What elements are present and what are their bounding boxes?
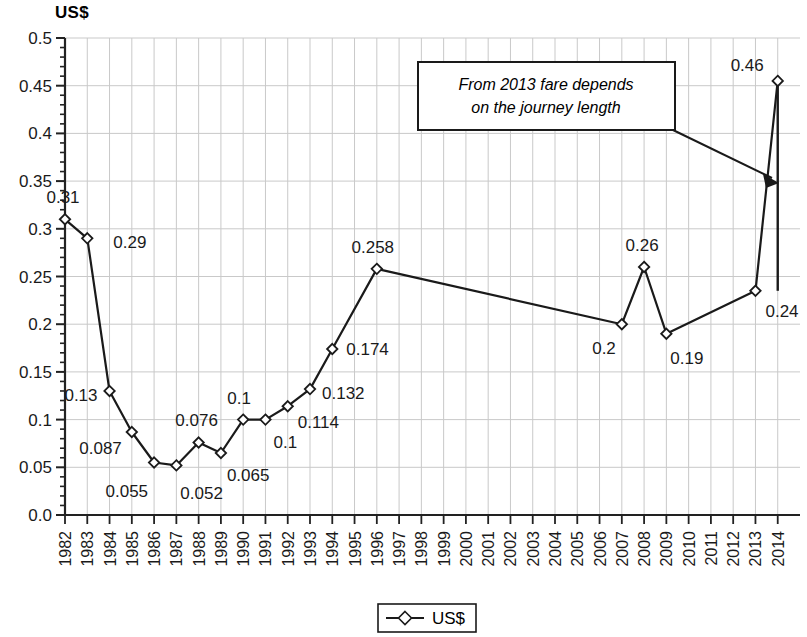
point-label-1982: 0.31 — [46, 188, 79, 207]
x-tick-label-1998: 1998 — [413, 531, 430, 567]
point-label-1984: 0.13 — [64, 386, 97, 405]
x-tick-label-2010: 2010 — [681, 531, 698, 567]
point-label-1989: 0.065 — [227, 466, 270, 485]
x-tick-label-1987: 1987 — [168, 531, 185, 567]
x-tick-label-1992: 1992 — [280, 531, 297, 567]
y-tick-label: 0.45 — [19, 77, 52, 96]
chart-container: US$ 0.00.050.10.150.20.250.30.350.40.450… — [0, 0, 807, 637]
y-tick-label: 0.2 — [28, 315, 52, 334]
x-tick-label-2000: 2000 — [458, 531, 475, 567]
point-label-1990: 0.1 — [227, 389, 251, 408]
annotation-box — [418, 62, 675, 130]
x-tick-label-2005: 2005 — [569, 531, 586, 567]
line-chart: US$ 0.00.050.10.150.20.250.30.350.40.450… — [0, 0, 807, 637]
point-label-1996: 0.258 — [352, 238, 395, 257]
point-label-1983: 0.29 — [113, 233, 146, 252]
x-tick-label-1997: 1997 — [391, 531, 408, 567]
point-label-1988: 0.076 — [175, 411, 218, 430]
x-tick-label-1993: 1993 — [302, 531, 319, 567]
y-tick-label: 0.25 — [19, 268, 52, 287]
x-tick-label-1986: 1986 — [146, 531, 163, 567]
x-tick-label-2014: 2014 — [770, 531, 787, 567]
y-tick-label: 0.15 — [19, 363, 52, 382]
x-tick-label-1989: 1989 — [213, 531, 230, 567]
x-tick-label-2007: 2007 — [614, 531, 631, 567]
point-label-1986: 0.055 — [106, 482, 149, 501]
y-axis-title: US$ — [55, 3, 89, 22]
point-label-2014: 0.46 — [731, 56, 764, 75]
x-tick-label-1996: 1996 — [369, 531, 386, 567]
x-tick-label-2001: 2001 — [480, 531, 497, 567]
point-label-1993: 0.132 — [322, 384, 365, 403]
x-tick-label-1991: 1991 — [257, 531, 274, 567]
y-tick-label: 0.4 — [28, 124, 52, 143]
x-tick-label-1995: 1995 — [347, 531, 364, 567]
point-label-1994: 0.174 — [346, 340, 389, 359]
y-tick-label: 0.3 — [28, 220, 52, 239]
point-label-1991: 0.1 — [273, 433, 297, 452]
chart-legend: US$ — [378, 604, 476, 632]
x-tick-label-1994: 1994 — [324, 531, 341, 567]
y-tick-label: 0.5 — [28, 29, 52, 48]
annotation-line-2: on the journey length — [471, 99, 621, 116]
legend-label: US$ — [432, 609, 466, 628]
x-tick-label-2003: 2003 — [525, 531, 542, 567]
x-tick-label-1999: 1999 — [436, 531, 453, 567]
point-label-1985: 0.087 — [79, 439, 122, 458]
x-tick-label-2009: 2009 — [658, 531, 675, 567]
x-tick-label-2013: 2013 — [747, 531, 764, 567]
y-tick-label: 0.0 — [28, 506, 52, 525]
x-tick-label-2012: 2012 — [725, 531, 742, 567]
x-tick-label-2008: 2008 — [636, 531, 653, 567]
x-tick-label-2002: 2002 — [502, 531, 519, 567]
point-label-2013: 0.24 — [765, 302, 798, 321]
point-label-2009: 0.19 — [670, 349, 703, 368]
x-tick-label-1984: 1984 — [102, 531, 119, 567]
x-tick-label-1988: 1988 — [191, 531, 208, 567]
x-tick-label-2006: 2006 — [592, 531, 609, 567]
x-tick-label-1982: 1982 — [57, 531, 74, 567]
y-tick-label: 0.05 — [19, 458, 52, 477]
x-tick-label-2011: 2011 — [703, 531, 720, 566]
point-label-1992: 0.114 — [298, 413, 339, 432]
x-tick-label-1990: 1990 — [235, 531, 252, 567]
x-tick-label-1985: 1985 — [124, 531, 141, 567]
point-label-1987: 0.052 — [180, 484, 223, 503]
x-tick-label-1983: 1983 — [79, 531, 96, 567]
point-label-2008: 0.26 — [626, 236, 659, 255]
annotation-line-1: From 2013 fare depends — [458, 76, 633, 93]
y-tick-label: 0.1 — [28, 411, 52, 430]
x-tick-label-2004: 2004 — [547, 531, 564, 567]
point-label-2007: 0.2 — [592, 339, 616, 358]
